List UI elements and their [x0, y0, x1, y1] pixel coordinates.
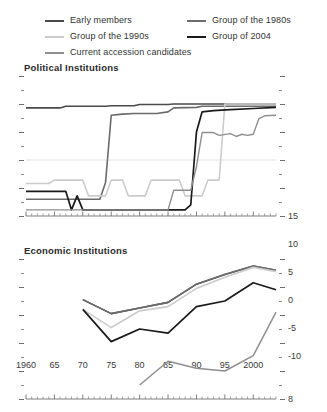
- y-tick-minor-left: [21, 90, 24, 91]
- y-tick-major: [280, 104, 285, 105]
- y-tick-major: [280, 399, 285, 400]
- chart-legend: Early membersGroup of the 1990sCurrent a…: [0, 0, 327, 58]
- y-tick-major-left: [19, 371, 24, 372]
- y-tick-major: [280, 188, 285, 189]
- y-tick-major: [280, 343, 285, 344]
- y-tick-minor-left: [21, 273, 24, 274]
- series-line-current-accession-candidates: [26, 115, 276, 210]
- y-tick-major: [280, 160, 285, 161]
- panel-title-political: Political Institutions: [24, 62, 119, 73]
- series-line-group-of-the-1990s: [26, 104, 276, 196]
- legend-label-early_members: Early members: [70, 16, 132, 25]
- series-line-group-of-the-1980s: [26, 106, 276, 199]
- y-tick-major-left: [19, 188, 24, 189]
- y-tick-major-left: [19, 104, 24, 105]
- legend-swatch-group_1980s: [187, 20, 206, 22]
- y-tick-major: [280, 371, 285, 372]
- y-tick-minor: [279, 357, 282, 358]
- legend-item-group_2004[interactable]: Group of 2004: [187, 30, 291, 43]
- plot-area-political: -10-5051015 1960657075808590952000: [26, 76, 276, 216]
- y-tick-major-left: [19, 343, 24, 344]
- legend-item-group_1980s[interactable]: Group of the 1980s: [187, 14, 291, 27]
- y-tick-major-left: [19, 216, 24, 217]
- series-line-group-of-the-1990s: [83, 267, 276, 327]
- y-tick-minor-left: [21, 202, 24, 203]
- plot-area-economic: 345678 1960657075808590952000: [26, 259, 276, 399]
- y-tick-minor: [279, 118, 282, 119]
- y-tick-major: [280, 315, 285, 316]
- y-tick-minor-left: [21, 146, 24, 147]
- legend-item-group_1990s[interactable]: Group of the 1990s: [45, 30, 191, 43]
- legend-label-group_2004: Group of 2004: [212, 32, 271, 41]
- y-tick-minor-left: [21, 118, 24, 119]
- y-tick-minor: [279, 301, 282, 302]
- series-line-early-members: [83, 266, 276, 314]
- legend-label-group_1980s: Group of the 1980s: [212, 16, 291, 25]
- legend-swatch-candidates: [45, 52, 64, 54]
- y-tick-major-left: [19, 132, 24, 133]
- y-tick-major-left: [19, 76, 24, 77]
- panel-political-institutions: Political Institutions -10-5051015 19606…: [0, 58, 327, 236]
- y-tick-minor: [279, 385, 282, 386]
- y-tick-major: [280, 287, 285, 288]
- legend-swatch-group_2004: [187, 36, 206, 38]
- y-tick-label: 15: [288, 211, 298, 221]
- y-tick-minor: [279, 174, 282, 175]
- series-line-group-of-2004: [83, 283, 276, 342]
- y-tick-major-left: [19, 160, 24, 161]
- y-tick-major-left: [19, 315, 24, 316]
- series-line-group-of-2004: [26, 107, 276, 209]
- legend-swatch-group_1990s: [45, 36, 64, 38]
- y-tick-minor-left: [21, 329, 24, 330]
- y-tick-major-left: [19, 399, 24, 400]
- legend-label-candidates: Current accession candidates: [70, 48, 191, 57]
- y-tick-major: [280, 259, 285, 260]
- plot-svg-economic: [26, 259, 276, 399]
- y-tick-minor: [279, 329, 282, 330]
- legend-swatch-early_members: [45, 20, 64, 22]
- y-tick-minor-left: [21, 385, 24, 386]
- series-line-group-of-the-1980s: [83, 266, 276, 314]
- chart-page: Early membersGroup of the 1990sCurrent a…: [0, 0, 327, 412]
- y-tick-major: [280, 216, 285, 217]
- y-tick-major: [280, 76, 285, 77]
- plot-svg-political: [26, 76, 276, 216]
- panel-title-economic: Economic Institutions: [24, 245, 127, 256]
- legend-column-right: Group of the 1980sGroup of 2004: [187, 14, 291, 46]
- y-tick-minor-left: [21, 301, 24, 302]
- y-tick-major-left: [19, 259, 24, 260]
- legend-column-left: Early membersGroup of the 1990sCurrent a…: [45, 14, 191, 62]
- y-tick-minor-left: [21, 357, 24, 358]
- y-tick-major-left: [19, 287, 24, 288]
- y-tick-minor-left: [21, 174, 24, 175]
- y-tick-major: [280, 132, 285, 133]
- panel-economic-institutions: Economic Institutions 345678 19606570758…: [0, 241, 327, 412]
- legend-item-early_members[interactable]: Early members: [45, 14, 191, 27]
- y-tick-minor: [279, 202, 282, 203]
- y-tick-minor: [279, 90, 282, 91]
- y-tick-minor: [279, 146, 282, 147]
- y-tick-label: 8: [288, 394, 293, 404]
- y-tick-minor: [279, 273, 282, 274]
- legend-label-group_1990s: Group of the 1990s: [70, 32, 149, 41]
- series-line-current-accession-candidates: [140, 312, 276, 385]
